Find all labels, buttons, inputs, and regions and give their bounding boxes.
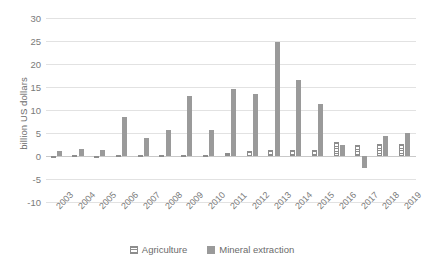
- bar-agriculture: [203, 155, 208, 157]
- legend-swatch-icon: [207, 246, 215, 254]
- bar-group: [351, 18, 373, 202]
- bar-mineral-extraction: [383, 136, 388, 156]
- bar-groups: [46, 18, 416, 202]
- y-axis-tick-label: 10: [7, 105, 41, 116]
- bar-mineral-extraction: [253, 94, 258, 156]
- bar-group: [177, 18, 199, 202]
- y-axis-tick-label: 5: [7, 128, 41, 139]
- legend-item[interactable]: Mineral extraction: [207, 244, 294, 255]
- bar-group: [198, 18, 220, 202]
- bar-group: [242, 18, 264, 202]
- y-axis-tick-label: 30: [7, 13, 41, 24]
- bar-group: [220, 18, 242, 202]
- bar-agriculture: [51, 156, 56, 158]
- bar-group: [329, 18, 351, 202]
- bar-group: [111, 18, 133, 202]
- bar-group: [372, 18, 394, 202]
- bar-mineral-extraction: [231, 89, 236, 156]
- bar-mineral-extraction: [187, 96, 192, 156]
- bar-chart: billion US dollars 302520151050-5-10 200…: [0, 0, 424, 271]
- y-axis-tick-label: 20: [7, 59, 41, 70]
- bar-group: [133, 18, 155, 202]
- bar-agriculture: [181, 155, 186, 157]
- bar-group: [68, 18, 90, 202]
- bar-agriculture: [399, 144, 404, 156]
- bar-mineral-extraction: [296, 80, 301, 156]
- bar-mineral-extraction: [362, 156, 367, 168]
- bar-mineral-extraction: [318, 104, 323, 156]
- y-axis-tick-label: -5: [7, 174, 41, 185]
- bar-mineral-extraction: [166, 130, 171, 156]
- bar-agriculture: [312, 150, 317, 156]
- bar-group: [307, 18, 329, 202]
- bar-group: [155, 18, 177, 202]
- bar-agriculture: [116, 155, 121, 157]
- bar-agriculture: [268, 150, 273, 156]
- bar-mineral-extraction: [340, 145, 345, 156]
- bar-agriculture: [355, 145, 360, 156]
- y-axis-tick-label: -10: [7, 197, 41, 208]
- bar-agriculture: [377, 144, 382, 156]
- y-axis-tick-label: 0: [7, 151, 41, 162]
- bar-agriculture: [72, 155, 77, 157]
- bar-agriculture: [159, 155, 164, 157]
- y-axis-tick-label: 25: [7, 36, 41, 47]
- bar-agriculture: [290, 150, 295, 156]
- plot-area: 302520151050-5-10: [46, 18, 416, 202]
- legend-item-label: Agriculture: [142, 244, 187, 255]
- bar-group: [90, 18, 112, 202]
- bar-mineral-extraction: [209, 130, 214, 156]
- bar-group: [46, 18, 68, 202]
- bar-group: [394, 18, 416, 202]
- bar-group: [264, 18, 286, 202]
- bar-mineral-extraction: [144, 138, 149, 156]
- legend-swatch-icon: [130, 246, 138, 254]
- legend-item-label: Mineral extraction: [219, 244, 294, 255]
- bar-mineral-extraction: [275, 42, 280, 156]
- bar-group: [285, 18, 307, 202]
- y-axis-tick-label: 15: [7, 82, 41, 93]
- bar-mineral-extraction: [57, 151, 62, 156]
- bar-agriculture: [247, 151, 252, 156]
- bar-mineral-extraction: [79, 149, 84, 156]
- bar-agriculture: [334, 142, 339, 156]
- bar-mineral-extraction: [122, 117, 127, 156]
- bar-agriculture: [94, 156, 99, 158]
- bar-mineral-extraction: [405, 133, 410, 156]
- chart-legend: AgricultureMineral extraction: [0, 244, 424, 255]
- bar-agriculture: [138, 155, 143, 157]
- bar-agriculture: [225, 153, 230, 156]
- legend-item[interactable]: Agriculture: [130, 244, 187, 255]
- x-axis-labels: 2003200420052006200720082009201020112012…: [46, 204, 416, 244]
- bar-mineral-extraction: [100, 150, 105, 156]
